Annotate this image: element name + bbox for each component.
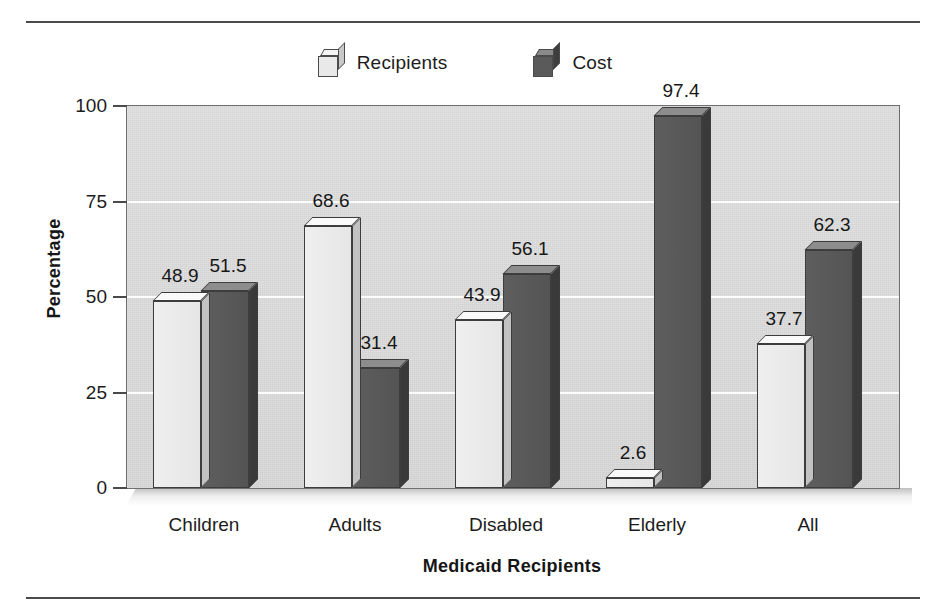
bar-side-face <box>853 241 862 488</box>
gridline <box>127 201 899 203</box>
value-label: 68.6 <box>291 190 371 212</box>
y-axis-title: Percentage <box>44 189 65 349</box>
bar-elderly-recipients[interactable] <box>606 478 654 488</box>
x-axis-category-label: All <box>718 514 898 536</box>
bar-top-face <box>757 335 814 344</box>
value-label: 56.1 <box>490 238 570 260</box>
bar-side-face <box>805 335 814 488</box>
value-label: 62.3 <box>792 214 872 236</box>
bar-top-face <box>606 469 663 478</box>
value-label: 51.5 <box>188 255 268 277</box>
bar-front-face <box>757 344 805 488</box>
bar-front-face <box>455 320 503 488</box>
bar-all-recipients[interactable] <box>757 344 805 488</box>
y-axis-tick-mark <box>113 296 127 298</box>
bar-side-face <box>503 311 512 488</box>
chart-legend: Recipients Cost <box>0 46 930 80</box>
y-axis-tick-mark <box>113 201 127 203</box>
bar-elderly-cost[interactable] <box>654 116 702 488</box>
x-axis-title: Medicaid Recipients <box>126 556 898 577</box>
bar-top-face <box>503 265 560 274</box>
plot-area: 0255075100 <box>126 105 900 489</box>
y-axis-tick-mark <box>113 487 127 489</box>
legend-label-cost: Cost <box>572 52 612 74</box>
figure: Recipients Cost Percentage 0255075100 Me… <box>0 0 930 613</box>
legend-label-recipients: Recipients <box>357 52 448 74</box>
bar-top-face <box>304 217 361 226</box>
bar-top-face <box>805 241 862 250</box>
bar-top-face <box>201 282 258 291</box>
bar-front-face <box>654 116 702 488</box>
bar-top-face <box>654 107 711 116</box>
value-label: 97.4 <box>641 80 721 102</box>
bar-children-recipients[interactable] <box>153 301 201 488</box>
bar-front-face <box>153 301 201 488</box>
bar-top-face <box>455 311 512 320</box>
light-cube-icon <box>318 49 346 77</box>
bar-disabled-recipients[interactable] <box>455 320 503 488</box>
plot-floor-shadow <box>126 488 912 506</box>
bar-adults-recipients[interactable] <box>304 226 352 488</box>
bar-top-face <box>153 292 210 301</box>
legend-item-cost: Cost <box>533 49 612 77</box>
bar-side-face <box>352 217 361 488</box>
bar-side-face <box>702 107 711 488</box>
bottom-rule <box>26 597 920 599</box>
bar-side-face <box>400 359 409 488</box>
bar-side-face <box>551 265 560 488</box>
y-axis-tick-mark <box>113 392 127 394</box>
bar-side-face <box>201 292 210 488</box>
y-axis-tick-mark <box>113 105 127 107</box>
bar-side-face <box>249 282 258 488</box>
dark-cube-icon <box>533 49 561 77</box>
bar-front-face <box>606 478 654 488</box>
top-rule <box>26 21 920 23</box>
bar-front-face <box>304 226 352 488</box>
legend-item-recipients: Recipients <box>318 49 448 77</box>
